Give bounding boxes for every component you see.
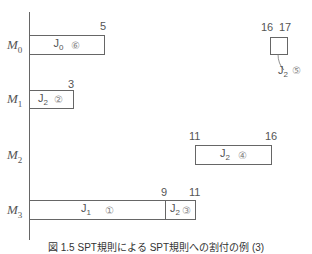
time-label: 16 <box>265 130 277 142</box>
task-bar-m0-j0: J0 ⑥ <box>29 35 105 55</box>
machine-label-m3: M3 <box>7 202 22 220</box>
time-label: 3 <box>68 78 74 90</box>
time-label: 9 <box>161 186 167 198</box>
order-badge: ⑥ <box>71 40 80 51</box>
job-label: J2 <box>220 147 230 162</box>
order-badge: ② <box>54 94 63 105</box>
machine-label-m1: M1 <box>7 91 22 109</box>
task-bar-m2-j2: J2 ④ <box>195 145 272 165</box>
machine-label-m2: M2 <box>7 147 22 165</box>
order-badge: ③ <box>182 205 191 216</box>
task-bar-m3-j2: J2 ③ <box>165 200 196 220</box>
task-bar-m1-j2: J2 ② <box>29 90 74 109</box>
task-bar-m3-j1: J1 ① <box>29 200 166 220</box>
time-label: 17 <box>279 21 291 33</box>
job-label: J1 <box>81 202 91 217</box>
figure-caption: 図 1.5 SPT規則による SPT規則への割付の例 (3) <box>48 239 264 254</box>
job-label: J0 <box>54 37 64 52</box>
time-label: 16 <box>261 21 273 33</box>
job-label: J2 <box>170 202 180 217</box>
time-label: 5 <box>100 20 106 32</box>
machine-label-m0: M0 <box>7 37 22 55</box>
task-bar-m0-j2 <box>270 37 288 55</box>
callout-j2-5: J2⑤ <box>278 64 301 79</box>
time-label: 11 <box>189 186 200 198</box>
order-badge: ① <box>105 205 114 216</box>
job-label: J2 <box>38 92 48 107</box>
order-badge: ④ <box>238 150 247 161</box>
time-label: 11 <box>189 130 200 142</box>
